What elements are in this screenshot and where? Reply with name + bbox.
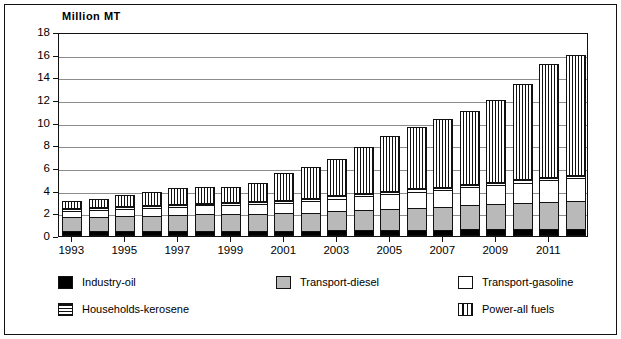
bar-segment-transport-gasoline xyxy=(301,201,321,212)
y-axis-tick-label: 6 xyxy=(44,163,50,175)
bar-segment-industry-oil xyxy=(539,229,559,236)
bar-segment-transport-gasoline xyxy=(460,187,480,205)
bar-segment-transport-diesel xyxy=(460,205,480,229)
bar-segment-industry-oil xyxy=(327,230,347,236)
bar-segment-transport-diesel xyxy=(62,217,82,232)
bar-segment-transport-gasoline xyxy=(433,190,453,207)
x-axis-tick-mark xyxy=(283,237,284,242)
bar-segment-transport-diesel xyxy=(354,210,374,230)
y-axis-unit-label: Million MT xyxy=(62,10,121,22)
bar-segment-transport-diesel xyxy=(513,203,533,229)
legend-swatch-icon xyxy=(458,276,473,289)
bar-segment-transport-diesel xyxy=(142,216,162,232)
bar-segment-transport-gasoline xyxy=(407,192,427,208)
bar-segment-transport-gasoline xyxy=(380,194,400,209)
bar-segment-power-all-fuels xyxy=(168,188,188,203)
bar-segment-transport-diesel xyxy=(274,213,294,231)
bar-segment-transport-gasoline xyxy=(566,178,586,201)
x-axis-tick-mark xyxy=(336,237,337,242)
bar-segment-industry-oil xyxy=(168,231,188,236)
x-axis-tick-mark xyxy=(495,237,496,242)
bar-series-group xyxy=(59,34,587,236)
x-axis-tick-label: 1995 xyxy=(111,245,137,257)
bar-segment-industry-oil xyxy=(62,231,82,236)
bar-segment-power-all-fuels xyxy=(327,159,347,195)
x-axis-tick-mark xyxy=(389,237,390,242)
x-axis-tick-label: 1997 xyxy=(164,245,190,257)
bar-segment-industry-oil xyxy=(566,229,586,236)
bar-segment-transport-diesel xyxy=(115,216,135,231)
bar-segment-transport-gasoline xyxy=(89,210,109,217)
bar-segment-transport-diesel xyxy=(539,202,559,229)
bar-segment-transport-gasoline xyxy=(354,196,374,210)
legend-label: Transport-gasoline xyxy=(482,277,573,288)
bar-segment-transport-gasoline xyxy=(513,183,533,203)
bar-1993 xyxy=(62,201,82,236)
bar-segment-transport-gasoline xyxy=(142,208,162,216)
bar-segment-transport-gasoline xyxy=(248,204,268,214)
bar-segment-industry-oil xyxy=(513,229,533,236)
legend-item-power-all-fuels[interactable]: Power-all fuels xyxy=(458,303,554,316)
x-axis-tick-label: 1993 xyxy=(58,245,84,257)
bar-segment-power-all-fuels xyxy=(248,183,268,202)
bar-segment-industry-oil xyxy=(433,230,453,236)
bar-segment-industry-oil xyxy=(89,231,109,236)
x-axis-tick-label: 2001 xyxy=(270,245,296,257)
bar-segment-transport-gasoline xyxy=(327,199,347,211)
bar-segment-industry-oil xyxy=(142,231,162,236)
bar-segment-industry-oil xyxy=(195,231,215,236)
bar-2008 xyxy=(460,111,480,236)
bar-1997 xyxy=(168,188,188,236)
x-axis-tick-label: 1999 xyxy=(217,245,243,257)
bar-segment-power-all-fuels xyxy=(221,187,241,202)
legend-item-transport-gasoline[interactable]: Transport-gasoline xyxy=(458,276,573,289)
bar-segment-transport-gasoline xyxy=(539,180,559,202)
bar-2012 xyxy=(566,55,586,236)
x-axis-tick-mark xyxy=(124,237,125,242)
bar-segment-transport-diesel xyxy=(380,209,400,231)
x-axis-tick-label: 2003 xyxy=(323,245,349,257)
bar-segment-power-all-fuels xyxy=(566,55,586,175)
legend-item-transport-diesel[interactable]: Transport-diesel xyxy=(276,276,379,289)
x-axis-tick-mark xyxy=(442,237,443,242)
bar-segment-transport-gasoline xyxy=(221,205,241,215)
y-axis-tick-label: 14 xyxy=(37,73,50,85)
bar-segment-transport-diesel xyxy=(195,214,215,231)
bar-segment-power-all-fuels xyxy=(301,167,321,198)
bar-segment-industry-oil xyxy=(486,229,506,236)
bar-segment-power-all-fuels xyxy=(539,64,559,177)
bar-segment-power-all-fuels xyxy=(142,192,162,205)
y-axis-tick-label: 8 xyxy=(44,141,50,153)
x-axis-tick-label: 2005 xyxy=(376,245,402,257)
legend-swatch-icon xyxy=(276,276,291,289)
legend-swatch-icon xyxy=(458,303,473,316)
chart-legend: Industry-oilTransport-dieselTransport-ga… xyxy=(58,276,603,328)
bar-1999 xyxy=(221,187,241,236)
bar-segment-industry-oil xyxy=(248,231,268,236)
x-axis-tick-mark xyxy=(230,237,231,242)
y-axis-tick-label: 2 xyxy=(44,209,50,221)
x-axis-tick-label: 2011 xyxy=(536,245,561,257)
x-axis-tick-label: 2007 xyxy=(429,245,455,257)
bar-1995 xyxy=(115,195,135,236)
bar-segment-industry-oil xyxy=(460,229,480,236)
bar-1996 xyxy=(142,192,162,236)
bar-segment-transport-diesel xyxy=(301,213,321,231)
bar-segment-power-all-fuels xyxy=(62,201,82,208)
bar-1998 xyxy=(195,187,215,236)
bar-segment-transport-diesel xyxy=(486,204,506,229)
bar-segment-industry-oil xyxy=(115,231,135,236)
bar-2001 xyxy=(274,173,294,236)
bar-segment-power-all-fuels xyxy=(433,119,453,186)
legend-item-households-kerosene[interactable]: Households-kerosene xyxy=(58,303,189,316)
bar-segment-power-all-fuels xyxy=(354,147,374,193)
legend-label: Power-all fuels xyxy=(482,304,554,315)
bar-segment-power-all-fuels xyxy=(89,199,109,208)
bar-segment-power-all-fuels xyxy=(195,187,215,202)
x-axis-tick-label: 2009 xyxy=(482,245,508,257)
bar-2004 xyxy=(354,147,374,236)
bar-1994 xyxy=(89,199,109,236)
legend-label: Transport-diesel xyxy=(300,277,379,288)
legend-item-industry-oil[interactable]: Industry-oil xyxy=(58,276,136,289)
bar-segment-transport-diesel xyxy=(221,214,241,231)
